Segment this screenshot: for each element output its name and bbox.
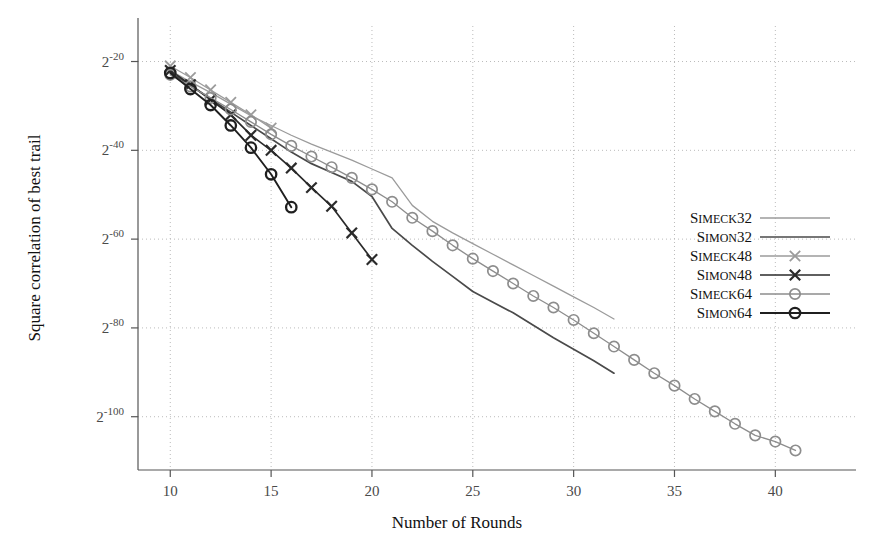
legend-label-simeck64: SIMECK64 bbox=[690, 286, 753, 302]
chart-figure: 101520253035402-202-402-602-802-100 SIME… bbox=[0, 0, 876, 558]
x-axis-title: Number of Rounds bbox=[392, 513, 522, 532]
legend-label-simon32: SIMON32 bbox=[697, 229, 752, 245]
x-tick-label: 10 bbox=[163, 483, 178, 499]
x-tick-label: 25 bbox=[465, 483, 480, 499]
x-tick-label: 30 bbox=[566, 483, 581, 499]
series-simeck48 bbox=[165, 61, 276, 134]
x-tick-label: 35 bbox=[667, 483, 682, 499]
x-tick-label: 40 bbox=[768, 483, 783, 499]
y-tick-label: 2-20 bbox=[102, 50, 125, 70]
tick-labels: 101520253035402-202-402-602-802-100 bbox=[96, 50, 782, 499]
legend-label-simon48: SIMON48 bbox=[697, 267, 752, 283]
y-tick-label: 2-60 bbox=[102, 227, 125, 247]
y-tick-label: 2-100 bbox=[96, 405, 124, 425]
y-tick-label: 2-80 bbox=[102, 316, 125, 336]
legend-label-simon64: SIMON64 bbox=[697, 305, 753, 321]
tick-marks bbox=[131, 62, 775, 477]
series-simon32 bbox=[170, 72, 614, 373]
legend-label-simeck32: SIMECK32 bbox=[690, 210, 752, 226]
x-tick-label: 15 bbox=[264, 483, 279, 499]
series-simon64 bbox=[165, 68, 296, 212]
legend-label-simeck48: SIMECK48 bbox=[690, 248, 752, 264]
axis-titles: Number of RoundsSquare correlation of be… bbox=[25, 134, 522, 532]
series-simeck32 bbox=[170, 70, 614, 319]
chart-canvas: 101520253035402-202-402-602-802-100 SIME… bbox=[0, 0, 876, 558]
y-axis-title: Square correlation of best trail bbox=[25, 134, 44, 341]
y-tick-label: 2-40 bbox=[102, 138, 125, 158]
x-tick-label: 20 bbox=[364, 483, 379, 499]
chart-legend: SIMECK32SIMON32SIMECK48SIMON48SIMECK64SI… bbox=[690, 210, 830, 321]
